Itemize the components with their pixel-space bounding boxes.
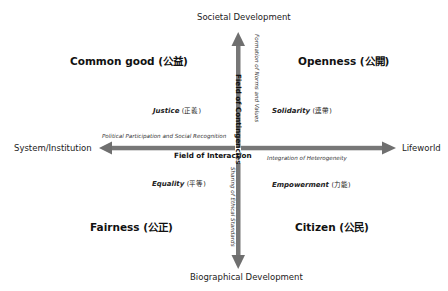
value-solidarity-zh: (連帶) (313, 107, 332, 115)
value-empowerment: Empowerment (力能) (272, 179, 350, 189)
pole-system-institution: System/Institution (14, 143, 92, 153)
value-justice-zh: (正義) (182, 107, 201, 115)
value-equality: Equality (平等) (152, 178, 206, 188)
quadrant-openness: Openness (公開) (298, 53, 389, 68)
quadrant-fairness: Fairness (公正) (90, 219, 173, 234)
value-solidarity: Solidarity (連帶) (272, 105, 332, 115)
value-empowerment-en: Empowerment (272, 181, 329, 189)
pole-lifeworld: Lifeworld (402, 143, 441, 153)
value-equality-zh: (平等) (187, 180, 206, 188)
arrow-right-icon (241, 142, 396, 155)
quadrant-common-good: Common good (公益) (70, 53, 188, 68)
value-empowerment-zh: (力能) (331, 181, 350, 189)
value-justice-en: Justice (153, 107, 179, 115)
value-solidarity-en: Solidarity (272, 107, 310, 115)
value-justice: Justice (正義) (153, 105, 201, 115)
process-formation-norms: Formation of Norms and Values (254, 34, 260, 122)
value-equality-en: Equality (152, 180, 184, 188)
pole-biographical-development: Biographical Development (190, 272, 303, 282)
field-of-interaction: Field of Interaction (174, 151, 252, 160)
quadrant-citizen: Citizen (公民) (295, 219, 369, 234)
process-political-participation: Political Participation and Social Recog… (102, 133, 226, 139)
pole-societal-development: Societal Development (197, 12, 291, 22)
process-integration-heterogeneity: Integration of Heterogeneity (267, 155, 347, 161)
process-sharing-ethical-standards: Sharing of Ethical Standards (230, 167, 236, 247)
